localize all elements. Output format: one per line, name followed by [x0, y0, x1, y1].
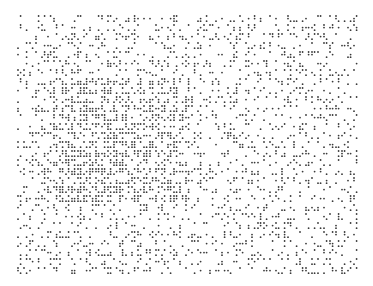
- braille-dot-pattern: [0, 0, 373, 286]
- dot-field: [0, 0, 373, 286]
